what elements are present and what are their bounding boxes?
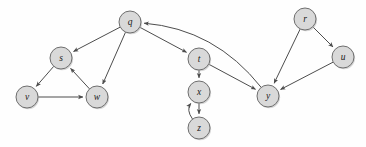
node-circle-v[interactable] [16, 86, 38, 108]
graph-edge-w-to-s [71, 68, 90, 88]
graph-node-y[interactable]: y [257, 85, 280, 108]
node-circle-x[interactable] [188, 81, 210, 103]
graph-edge-s-to-v [36, 66, 53, 86]
node-circle-s[interactable] [50, 47, 72, 69]
node-circle-z[interactable] [188, 117, 210, 139]
graph-edge-q-to-s [74, 27, 121, 51]
edge-layer [36, 23, 333, 119]
graph-edge-q-to-w [103, 32, 126, 84]
graph-edge-q-to-t [140, 27, 187, 52]
graph-node-v[interactable]: v [16, 86, 39, 109]
graph-node-x[interactable]: x [188, 81, 211, 104]
node-circle-t[interactable] [188, 48, 210, 70]
graph-edge-u-to-y [281, 62, 334, 89]
node-circle-w[interactable] [86, 86, 108, 108]
graph-edge-t-to-y [209, 64, 256, 89]
graph-node-r[interactable]: r [294, 8, 317, 31]
graph-edge-r-to-y [274, 29, 300, 83]
node-circle-y[interactable] [257, 85, 279, 107]
node-circle-u[interactable] [332, 46, 354, 68]
graph-node-w[interactable]: w [86, 86, 109, 109]
graph-canvas: qsvwtxzyru [0, 0, 366, 147]
graph-node-t[interactable]: t [188, 48, 211, 71]
graph-node-q[interactable]: q [119, 11, 142, 34]
node-circle-q[interactable] [119, 11, 141, 33]
graph-edge-z-to-x [189, 104, 193, 120]
graph-node-z[interactable]: z [188, 117, 211, 140]
node-layer: qsvwtxzyru [16, 8, 355, 140]
node-circle-r[interactable] [294, 8, 316, 30]
graph-node-u[interactable]: u [332, 46, 355, 69]
directed-graph-figure: qsvwtxzyru [0, 0, 366, 147]
graph-edge-r-to-u [313, 27, 333, 47]
